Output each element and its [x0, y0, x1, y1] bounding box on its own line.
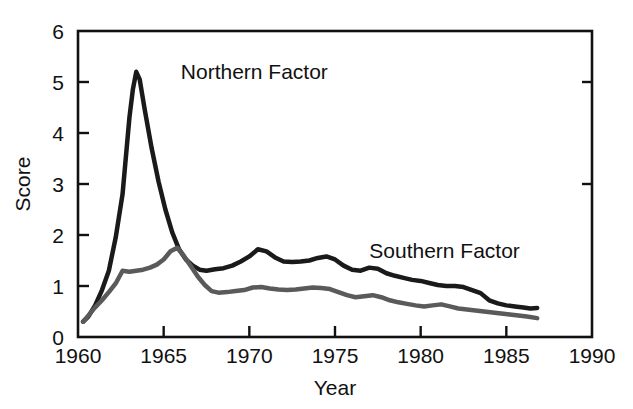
line-chart: 01234561960196519701975198019851990 Nort… — [0, 0, 633, 409]
y-tick-label: 5 — [52, 71, 64, 94]
y-axis-title: Score — [11, 157, 34, 212]
x-tick-label: 1970 — [226, 344, 273, 367]
y-tick-label: 1 — [52, 275, 64, 298]
x-tick-label: 1985 — [483, 344, 530, 367]
chart-figure: 01234561960196519701975198019851990 Nort… — [0, 0, 633, 409]
series-label-northern-factor: Northern Factor — [181, 60, 328, 83]
y-tick-label: 3 — [52, 173, 64, 196]
x-tick-label: 1960 — [55, 344, 102, 367]
series-line-northern-factor — [83, 72, 537, 322]
y-tick-label: 2 — [52, 224, 64, 247]
x-axis-title: Year — [314, 376, 356, 399]
y-tick-label: 6 — [52, 20, 64, 43]
x-tick-label: 1990 — [569, 344, 616, 367]
y-tick-label: 4 — [52, 122, 64, 145]
x-tick-label: 1975 — [312, 344, 359, 367]
x-tick-label: 1980 — [397, 344, 444, 367]
series-layer — [83, 72, 537, 322]
x-tick-label: 1965 — [140, 344, 187, 367]
series-label-southern-factor: Southern Factor — [369, 239, 520, 262]
